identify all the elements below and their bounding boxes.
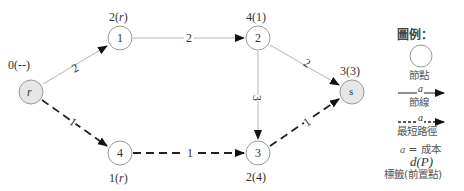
legend-edge-label: 節線 — [409, 96, 429, 109]
legend-title: 圖例： — [397, 25, 433, 42]
tag-1: 2(r) — [109, 11, 128, 23]
node-s-label: s — [349, 86, 353, 97]
node-2-label: 2 — [255, 32, 261, 44]
cost-4-3: 1 — [185, 147, 195, 159]
node-1-label: 1 — [117, 32, 123, 44]
node-r-label: r — [27, 86, 32, 98]
network-diagram — [0, 0, 464, 191]
tag-3: 2(4) — [246, 171, 266, 183]
legend-edge-symbol: a — [417, 84, 424, 94]
legend-node-label: 節點 — [409, 69, 429, 82]
legend-path-label: 最短路徑 — [397, 125, 437, 138]
cost-1-2: 2 — [184, 32, 194, 44]
tag-s: 3(3) — [340, 65, 360, 77]
node-3-label: 3 — [255, 147, 261, 159]
tag-4: 1(r) — [109, 172, 128, 184]
tag-2: 4(1) — [246, 11, 266, 23]
legend-tag-label: 標籤(前置點) — [384, 168, 442, 181]
tag-r: 0(--) — [8, 59, 30, 71]
legend-node-icon — [410, 45, 432, 67]
legend-tag-symbol: d(P) — [410, 155, 433, 168]
node-4-label: 4 — [117, 147, 123, 159]
cost-2-3: 3 — [251, 95, 263, 101]
legend-path-symbol: a — [417, 113, 424, 123]
